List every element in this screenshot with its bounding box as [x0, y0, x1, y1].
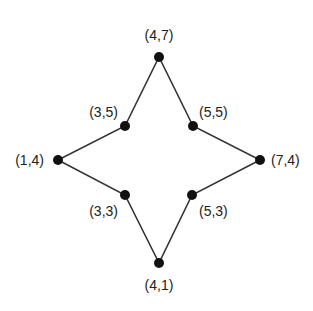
- vertex-label: (5,3): [199, 203, 228, 219]
- vertex-label: (3,5): [89, 104, 118, 120]
- vertex-point: [120, 121, 130, 131]
- vertex-point: [120, 190, 130, 200]
- vertex-label: (4,1): [145, 277, 174, 293]
- vertex-point: [255, 155, 265, 165]
- vertex-point: [154, 52, 164, 62]
- vertex-point: [154, 258, 164, 268]
- vertex-label: (3,3): [89, 203, 118, 219]
- vertex-label: (4,7): [145, 27, 174, 43]
- vertex-label: (5,5): [199, 104, 228, 120]
- vertex-point: [187, 190, 197, 200]
- vertex-label: (7,4): [271, 152, 300, 168]
- vertex-point: [188, 121, 198, 131]
- vertex-points: [53, 52, 265, 268]
- vertex-point: [53, 155, 63, 165]
- vertex-label: (1,4): [15, 152, 44, 168]
- star-outline: [58, 57, 260, 263]
- star-diagram: (4,7)(5,5)(7,4)(5,3)(4,1)(3,3)(1,4)(3,5): [0, 0, 313, 311]
